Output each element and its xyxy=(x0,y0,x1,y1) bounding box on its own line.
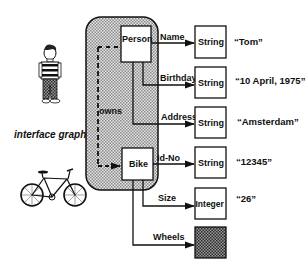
value-name: “Tom” xyxy=(234,36,263,47)
type-box-wheels xyxy=(195,227,226,258)
person-node xyxy=(121,26,151,62)
value-birthday: “10 April, 1975” xyxy=(235,75,306,86)
edge-label-birthday: Birthday xyxy=(160,73,197,83)
type-label-address: String xyxy=(198,118,224,128)
bicycle-icon xyxy=(21,169,86,206)
edge-label-id-no: Id-No xyxy=(157,153,180,163)
value-address: “Amsterdam” xyxy=(237,116,299,127)
edge-label-address: Address xyxy=(161,112,197,122)
type-label-name: String xyxy=(198,37,224,47)
edge-label-name: Name xyxy=(160,32,185,42)
type-label-id-no: String xyxy=(198,158,224,168)
bike-node-label: Bike xyxy=(129,159,148,169)
person-icon xyxy=(39,45,61,103)
value-size: “26” xyxy=(236,193,256,204)
edge-label-wheels: Wheels xyxy=(153,232,185,242)
edge-label-size: Size xyxy=(158,193,176,203)
person-node-label: Person xyxy=(122,34,153,44)
interface-graph-diagram: owns Person Bike Name Birthday Address I… xyxy=(0,0,306,275)
interface-graph-caption: interface graph xyxy=(14,129,86,140)
owns-label: owns xyxy=(99,106,122,116)
value-id-no: “12345” xyxy=(236,156,272,167)
type-label-size: Integer xyxy=(196,199,225,209)
type-label-birthday: String xyxy=(198,78,224,88)
